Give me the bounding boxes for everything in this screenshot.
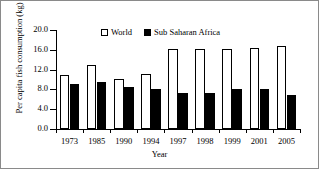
bar-group [141, 30, 161, 129]
bar-world-1997 [168, 49, 178, 129]
x-axis-tick [192, 129, 193, 133]
bar-group [60, 30, 80, 129]
bar-group [222, 30, 242, 129]
x-axis-tick [300, 129, 301, 133]
x-axis-line [56, 129, 301, 130]
x-axis-tick [273, 129, 274, 133]
bar-sub-saharan-africa-1973 [70, 84, 80, 129]
x-axis-title: Year [1, 149, 318, 159]
bar-world-1998 [195, 49, 205, 129]
bar-sub-saharan-africa-1985 [97, 82, 107, 129]
bar-group [168, 30, 188, 129]
x-axis-tick [110, 129, 111, 133]
bar-sub-saharan-africa-2005 [287, 95, 297, 129]
bar-sub-saharan-africa-1997 [178, 93, 188, 129]
x-axis-tick [246, 129, 247, 133]
x-axis-tick-label: 2005 [266, 136, 306, 146]
y-axis-tick-label: 8.0 [6, 84, 48, 92]
bar-world-1994 [141, 74, 151, 129]
bar-world-1973 [60, 75, 70, 129]
bar-world-1990 [114, 79, 124, 129]
chart-figure: Per capita fish consumption (kg) 0.04.08… [0, 0, 319, 169]
y-axis-ticks: 0.04.08.012.016.020.0 [1, 1, 56, 169]
x-axis-tick [83, 129, 84, 133]
x-axis-tick [137, 129, 138, 133]
y-axis-tick-label: 12.0 [6, 65, 48, 73]
y-axis-tick-label: 4.0 [6, 104, 48, 112]
bar-world-1985 [87, 65, 97, 129]
bar-sub-saharan-africa-1998 [205, 93, 215, 129]
bar-sub-saharan-africa-1990 [124, 87, 134, 129]
bar-group [114, 30, 134, 129]
plot-area [56, 30, 300, 129]
bar-world-2001 [250, 48, 260, 129]
bar-sub-saharan-africa-2001 [260, 89, 270, 129]
bar-group [277, 30, 297, 129]
y-axis-tick-label: 20.0 [6, 25, 48, 33]
y-axis-tick-label: 16.0 [6, 45, 48, 53]
bar-group [195, 30, 215, 129]
x-axis-tick [56, 129, 57, 133]
bar-group [250, 30, 270, 129]
bar-world-1999 [222, 49, 232, 129]
bar-group [87, 30, 107, 129]
bar-world-2005 [277, 46, 287, 129]
x-axis-tick [164, 129, 165, 133]
bar-sub-saharan-africa-1999 [232, 89, 242, 129]
y-axis-tick-label: 0.0 [6, 124, 48, 132]
bar-sub-saharan-africa-1994 [151, 89, 161, 129]
x-axis-tick [219, 129, 220, 133]
